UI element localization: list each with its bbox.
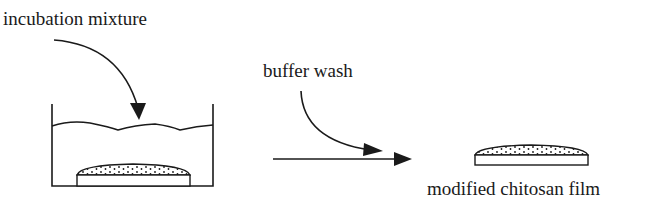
chitosan-film-in-beaker-icon <box>77 164 190 186</box>
modified-chitosan-film-icon <box>475 145 588 165</box>
incubation-arrow-icon <box>54 40 146 120</box>
buffer-wash-arrow-icon <box>301 91 383 156</box>
process-arrow-icon <box>273 152 412 166</box>
process-diagram <box>0 0 670 215</box>
